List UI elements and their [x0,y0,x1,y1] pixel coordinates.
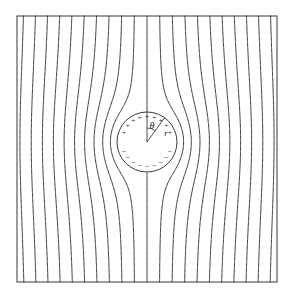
positive-charge-mark: + [131,117,135,125]
positive-charge-mark: + [168,129,172,137]
field-line [94,16,109,282]
field-line [42,16,48,282]
field-line [31,16,36,282]
negative-charge-mark: − [168,147,173,156]
positive-charge-mark: + [126,122,130,130]
field-line [75,16,85,282]
positive-charge-mark: + [138,114,142,122]
field-line [85,16,97,282]
negative-charge-mark: − [131,158,136,167]
field-line [53,16,60,282]
theta-label: θ [150,120,155,131]
field-line [234,16,241,282]
negative-charge-mark: − [138,161,143,170]
negative-charge-mark: − [159,158,164,167]
negative-charge-mark: − [145,162,150,171]
field-line [222,16,230,282]
negative-charge-mark: − [125,153,130,162]
r-label: r [164,128,168,138]
field-line-diagram: +++++++++−−−−−−−−− θr [0,0,294,297]
field-line [197,16,209,282]
field-line [246,16,252,282]
field-line [64,16,72,282]
negative-charge-mark: − [152,161,157,170]
field-line [185,16,200,282]
field-line [270,16,274,282]
figure-root: +++++++++−−−−−−−−− θr [0,0,294,297]
field-line [209,16,219,282]
field-line [258,16,263,282]
field-line [20,16,24,282]
